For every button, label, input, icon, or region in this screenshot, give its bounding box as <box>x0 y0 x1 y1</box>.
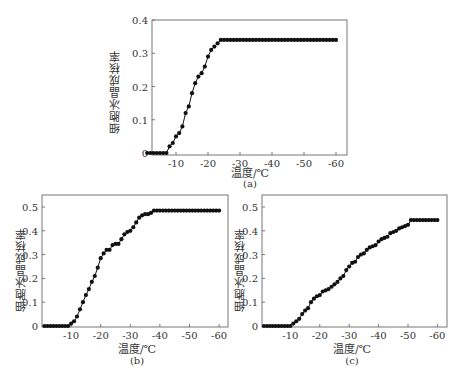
chart-b-caption: (b) <box>117 355 157 366</box>
data-point <box>69 322 73 326</box>
data-point <box>45 324 49 328</box>
data-point <box>271 324 275 328</box>
x-tick-label: -50 <box>296 158 312 169</box>
data-point <box>171 141 175 145</box>
y-tick-label: 0.4 <box>132 15 148 26</box>
x-tick-label: -60 <box>429 330 445 341</box>
y-tick-label: 0.3 <box>242 250 258 261</box>
x-tick-label: -30 <box>122 330 138 341</box>
data-point <box>362 251 366 255</box>
data-point <box>315 294 319 298</box>
chart-c-xlabel: 温度/℃ <box>322 340 382 356</box>
data-point <box>394 229 398 233</box>
data-point <box>356 255 360 259</box>
data-point <box>54 324 58 328</box>
data-point <box>318 293 322 297</box>
plot-area: -10-20-30-40-50-6000.10.20.30.40.5 <box>242 195 447 341</box>
y-tick-label: 0.2 <box>22 273 38 284</box>
data-point <box>184 111 188 115</box>
data-point <box>78 307 82 311</box>
x-tick-label: -20 <box>93 330 109 341</box>
data-point <box>432 218 436 222</box>
data-point <box>306 306 310 310</box>
data-point <box>397 226 401 230</box>
data-point <box>377 239 381 243</box>
data-point <box>190 208 194 212</box>
data-point <box>149 211 153 215</box>
x-tick-label: -10 <box>63 330 79 341</box>
chart-a-ylabel: 细胞冰晶成核率 <box>108 50 124 134</box>
data-point <box>179 208 183 212</box>
data-point <box>379 237 383 241</box>
data-point <box>277 324 281 328</box>
x-tick-label: -50 <box>400 330 416 341</box>
data-point <box>63 324 67 328</box>
data-point <box>291 322 295 326</box>
data-point <box>359 253 363 257</box>
data-point <box>176 208 180 212</box>
data-point <box>334 38 338 42</box>
data-point <box>303 308 307 312</box>
data-point <box>84 293 88 297</box>
y-tick-label: 0.2 <box>132 82 148 93</box>
data-point <box>93 274 97 278</box>
chart-b-xlabel: 温度/℃ <box>107 340 167 356</box>
data-point <box>99 256 103 260</box>
y-tick-label: 0.5 <box>22 202 38 213</box>
data-point <box>203 64 207 68</box>
data-point <box>131 225 135 229</box>
data-point <box>164 151 168 155</box>
x-tick-label: -60 <box>211 330 227 341</box>
data-point <box>184 208 188 212</box>
data-point <box>205 208 209 212</box>
x-tick-label: -20 <box>200 158 216 169</box>
data-point <box>409 218 413 222</box>
data-point <box>279 324 283 328</box>
data-point <box>57 324 61 328</box>
chart-a: -10-20-30-40-50-6000.10.20.30.4 细胞冰晶成核率 … <box>0 0 462 190</box>
data-point <box>385 235 389 239</box>
data-point <box>110 243 114 247</box>
data-point <box>297 317 301 321</box>
data-point <box>338 276 342 280</box>
data-point <box>190 91 194 95</box>
y-tick-label: 0.3 <box>22 250 38 261</box>
data-point <box>187 104 191 108</box>
data-point <box>208 208 212 212</box>
data-point <box>288 324 292 328</box>
data-point <box>199 208 203 212</box>
y-tick-label: 0.2 <box>242 273 258 284</box>
data-point <box>268 324 272 328</box>
data-point <box>388 231 392 235</box>
data-point <box>327 287 331 291</box>
data-point <box>374 243 378 247</box>
data-point <box>42 324 46 328</box>
data-point <box>125 230 129 234</box>
data-point <box>312 297 316 301</box>
data-point <box>309 300 313 304</box>
data-point <box>170 208 174 212</box>
series-line <box>45 211 220 326</box>
data-point <box>119 237 123 241</box>
data-point <box>48 324 52 328</box>
data-point <box>196 208 200 212</box>
data-point <box>155 208 159 212</box>
data-point <box>350 261 354 265</box>
data-point <box>152 208 156 212</box>
data-point <box>177 131 181 135</box>
y-tick-label: 0.1 <box>132 115 148 126</box>
data-point <box>137 216 141 220</box>
data-point <box>265 324 269 328</box>
data-point <box>72 319 76 323</box>
y-tick-label: 0 <box>32 321 38 332</box>
data-point <box>300 312 304 316</box>
data-point <box>321 289 325 293</box>
data-point <box>167 208 171 212</box>
data-point <box>282 324 286 328</box>
y-tick-label: 0.1 <box>22 297 38 308</box>
data-point <box>285 324 289 328</box>
data-point <box>200 71 204 75</box>
data-point <box>158 208 162 212</box>
data-point <box>134 220 138 224</box>
data-point <box>324 288 328 292</box>
